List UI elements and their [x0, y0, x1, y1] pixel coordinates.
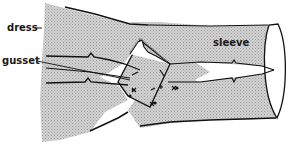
sleeve-top-edge: [148, 25, 268, 26]
gusset-diagram: [0, 0, 289, 163]
gusset-label: gusset: [2, 56, 40, 66]
sleeve-label: sleeve: [213, 38, 249, 48]
dress-label: dress: [7, 23, 38, 33]
